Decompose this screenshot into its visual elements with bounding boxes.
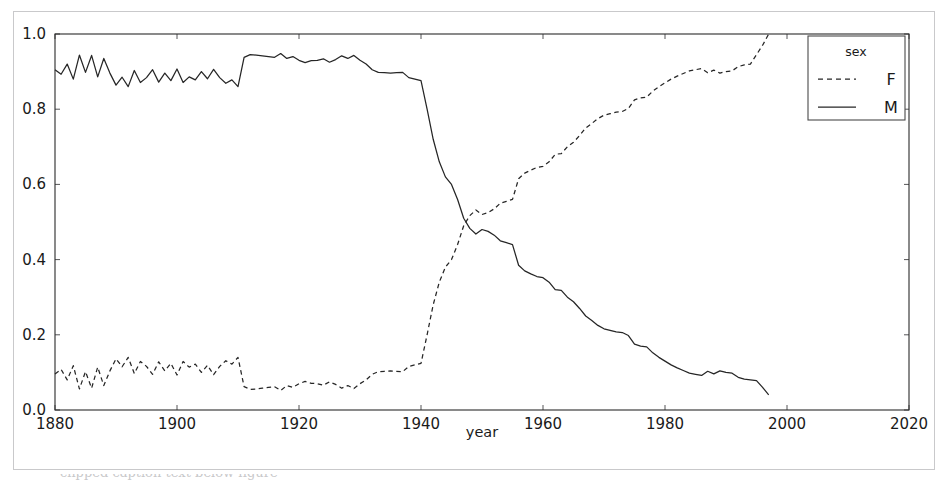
line-chart: 18801900192019401960198020002020 0.00.20… bbox=[0, 0, 949, 488]
caption-text: clipped caption text below figure bbox=[60, 474, 278, 480]
legend-title: sex bbox=[845, 44, 866, 59]
x-axis-title: year bbox=[466, 424, 498, 440]
x-tick-label: 1980 bbox=[646, 415, 684, 433]
y-tick-label: 0.0 bbox=[22, 401, 46, 419]
x-tick-label: 1960 bbox=[524, 415, 562, 433]
x-tick-label: 1900 bbox=[158, 415, 196, 433]
legend[interactable]: sex F M bbox=[808, 36, 905, 120]
x-tick-label: 2000 bbox=[768, 415, 806, 433]
x-tick-label: 2020 bbox=[890, 415, 928, 433]
y-axis-tick-labels: 0.00.20.40.60.81.0 bbox=[22, 25, 46, 419]
y-tick-label: 0.6 bbox=[22, 175, 46, 193]
x-tick-label: 1940 bbox=[402, 415, 440, 433]
legend-label-m: M bbox=[884, 98, 898, 117]
plot-background bbox=[55, 34, 909, 410]
clipped-caption: clipped caption text below figure bbox=[0, 474, 949, 488]
x-tick-label: 1920 bbox=[280, 415, 318, 433]
figure-canvas: 18801900192019401960198020002020 0.00.20… bbox=[0, 0, 949, 488]
y-tick-label: 0.2 bbox=[22, 326, 46, 344]
y-tick-label: 0.4 bbox=[22, 251, 46, 269]
legend-label-f: F bbox=[886, 70, 895, 89]
y-tick-label: 1.0 bbox=[22, 25, 46, 43]
axes-area: 18801900192019401960198020002020 0.00.20… bbox=[22, 25, 928, 440]
y-tick-label: 0.8 bbox=[22, 100, 46, 118]
